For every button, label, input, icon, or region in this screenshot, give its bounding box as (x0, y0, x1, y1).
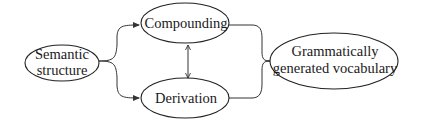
edge-semantic-compounding (99, 25, 139, 61)
diagram-canvas: Semantic structure Compounding Derivatio… (0, 0, 446, 122)
diagram: Semantic structure Compounding Derivatio… (0, 0, 446, 122)
node-label: structure (37, 62, 88, 78)
node-label: Derivation (155, 90, 218, 106)
node-grammatically-generated-vocabulary: Grammatically generated vocabulary (270, 33, 398, 89)
node-semantic-structure: Semantic structure (25, 45, 99, 81)
edge-semantic-derivation (99, 61, 139, 98)
node-derivation: Derivation (141, 78, 229, 118)
edge-derivation-vocabulary (228, 61, 270, 98)
node-label: Grammatically (292, 43, 380, 59)
node-label: Compounding (145, 15, 228, 31)
node-label: Semantic (35, 46, 89, 62)
node-label: generated vocabulary (273, 60, 398, 76)
node-compounding: Compounding (141, 3, 229, 43)
edge-compounding-vocabulary (228, 25, 270, 61)
